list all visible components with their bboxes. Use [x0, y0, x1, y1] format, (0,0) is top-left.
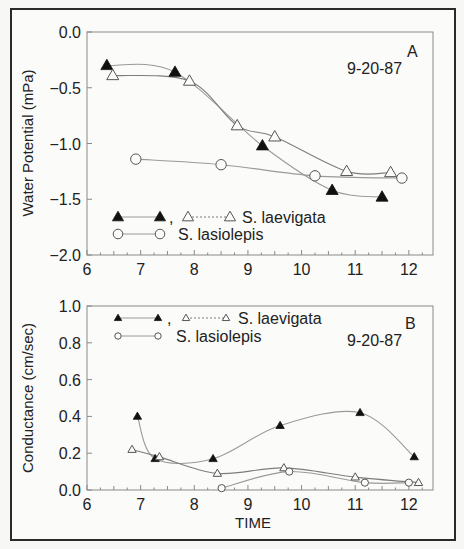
open-triangle-marker: [222, 314, 229, 320]
open-circle-marker: [216, 159, 226, 169]
legend-label-s-lasiolepis: S. lasiolepis: [176, 328, 261, 345]
panel-b-curves: [132, 411, 418, 488]
open-circle-marker: [361, 479, 368, 486]
legend-separator: ,: [167, 310, 171, 327]
panel-b-date: 9-20-87: [347, 332, 402, 349]
x-tick-label: 11: [347, 496, 364, 513]
open-triangle-marker: [385, 166, 397, 176]
open-circle-marker: [155, 229, 165, 239]
y-tick-label: 0.4: [59, 408, 81, 425]
filled-triangle-marker: [114, 314, 121, 320]
open-circle-marker: [155, 333, 161, 339]
open-circle-marker: [113, 229, 123, 239]
panel-a-y-ticks: 0.0−0.5−1.0−1.5−2.0: [49, 24, 92, 264]
panel-a-x-ticks: 6789101112: [83, 250, 423, 278]
open-circle-marker: [405, 479, 412, 486]
filled-triangle-marker: [112, 211, 123, 221]
panel-a-curves: [107, 64, 402, 197]
x-tick-label: 12: [400, 496, 418, 513]
open-triangle-marker: [182, 314, 189, 320]
filled-triangle-marker: [256, 139, 268, 149]
panel-b: 6789101112 1.00.80.60.40.20.0 Conductanc…: [19, 298, 433, 531]
y-tick-label: 1.0: [59, 298, 81, 315]
panel-b-legend: ,S. laevigataS. lasiolepis: [114, 310, 321, 345]
open-triangle-marker: [231, 119, 243, 129]
filled-triangle-marker: [169, 66, 181, 76]
y-tick-label: −1.5: [49, 191, 81, 208]
y-tick-label: 0.8: [59, 335, 81, 352]
filled-triangle-marker: [101, 59, 113, 69]
y-tick-label: 0.2: [59, 445, 81, 462]
filled-triangle-marker: [326, 184, 338, 194]
panel-a: 6789101112 0.0−0.5−1.0−1.5−2.0 Water Pot…: [19, 24, 433, 278]
x-tick-label: 9: [243, 496, 252, 513]
series-curve: [137, 411, 414, 463]
open-triangle-marker: [128, 445, 136, 452]
panel-b-x-axis-title: TIME: [235, 514, 271, 531]
x-tick-label: 7: [136, 496, 145, 513]
y-tick-label: −2.0: [49, 247, 81, 264]
y-tick-label: −0.5: [49, 80, 81, 97]
y-tick-label: −1.0: [49, 136, 81, 153]
filled-triangle-marker: [376, 191, 388, 201]
open-circle-marker: [115, 333, 121, 339]
x-tick-label: 6: [83, 496, 92, 513]
x-tick-label: 10: [293, 496, 311, 513]
open-circle-marker: [218, 485, 225, 492]
open-circle-marker: [286, 468, 293, 475]
open-triangle-marker: [182, 211, 193, 221]
open-triangle-marker: [224, 211, 235, 221]
panel-b-letter: B: [405, 315, 416, 332]
open-triangle-marker: [107, 69, 119, 79]
x-tick-label: 11: [347, 261, 364, 278]
panel-a-legend: ,S. laevigataS. lasiolepis: [112, 209, 325, 243]
open-circle-marker: [310, 171, 320, 181]
legend-label-s-lasiolepis: S. lasiolepis: [178, 226, 263, 243]
y-tick-label: 0.6: [59, 372, 81, 389]
open-circle-marker: [397, 173, 407, 183]
x-tick-label: 8: [190, 496, 199, 513]
legend-label-s-laevigata: S. laevigata: [238, 310, 322, 327]
open-circle-marker: [131, 154, 141, 164]
panel-b-y-axis-title: Conductance (cm/sec): [19, 323, 36, 473]
legend-label-s-laevigata: S. laevigata: [242, 209, 326, 226]
series-curve: [113, 75, 391, 174]
series-curve: [136, 159, 402, 178]
x-tick-label: 7: [136, 261, 145, 278]
panel-a-markers: [101, 59, 407, 201]
panel-b-x-ticks: 6789101112: [83, 485, 423, 513]
panel-a-letter: A: [407, 43, 418, 60]
x-tick-label: 6: [83, 261, 92, 278]
series-curve: [132, 450, 418, 483]
legend-separator: ,: [169, 209, 173, 226]
panel-a-y-axis-title: Water Potential (mPa): [19, 70, 36, 217]
x-tick-label: 12: [400, 261, 418, 278]
x-tick-label: 10: [293, 261, 311, 278]
panel-a-date: 9-20-87: [347, 60, 402, 77]
x-tick-label: 8: [190, 261, 199, 278]
filled-triangle-marker: [133, 412, 141, 419]
figure: 6789101112 0.0−0.5−1.0−1.5−2.0 Water Pot…: [0, 0, 464, 549]
filled-triangle-marker: [154, 211, 165, 221]
x-tick-label: 9: [243, 261, 252, 278]
filled-triangle-marker: [154, 314, 161, 320]
y-tick-label: 0.0: [59, 482, 81, 499]
y-tick-label: 0.0: [59, 24, 81, 41]
